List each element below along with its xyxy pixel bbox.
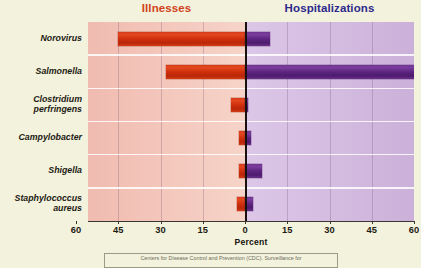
heading-illnesses: Illnesses	[88, 2, 245, 14]
zero-axis-line	[245, 22, 247, 221]
value-axis-tick-label: 60	[401, 225, 421, 235]
value-axis-tick-label: 45	[359, 225, 385, 235]
category-label: Staphylococcusaureus	[0, 194, 82, 213]
bar-illnesses	[231, 98, 245, 112]
bar-illnesses	[237, 197, 245, 211]
bar-hospitalizations	[245, 65, 414, 79]
value-axis-title: Percent	[88, 237, 414, 247]
value-axis-line	[88, 221, 414, 222]
value-axis-tick	[414, 221, 415, 224]
value-axis-tick-label: 15	[274, 225, 300, 235]
category-label: Shigella	[0, 166, 82, 176]
bar-hospitalizations	[245, 164, 262, 178]
category-label: Clostridiumperfringens	[0, 95, 82, 114]
gridline-horizontal	[88, 88, 414, 90]
value-axis-tick-label: 45	[105, 225, 131, 235]
value-axis-tick	[76, 221, 77, 224]
value-axis-tick	[330, 221, 331, 224]
value-axis-tick	[161, 221, 162, 224]
value-axis-tick	[203, 221, 204, 224]
plot-area	[88, 22, 414, 221]
gridline-horizontal	[88, 187, 414, 189]
category-label: Norovirus	[0, 34, 82, 44]
value-axis-tick-label: 60	[63, 225, 89, 235]
gridline-horizontal	[88, 54, 414, 56]
gridline-horizontal	[88, 154, 414, 156]
value-axis-tick	[287, 221, 288, 224]
heading-hospitalizations: Hospitalizations	[245, 2, 414, 14]
category-label: Salmonella	[0, 67, 82, 77]
source-caption-text: Centers for Disease Control and Preventi…	[105, 254, 337, 261]
value-axis-tick	[118, 221, 119, 224]
value-axis-tick-label: 30	[317, 225, 343, 235]
bar-hospitalizations	[245, 32, 270, 46]
bar-illnesses	[118, 32, 245, 46]
value-axis-tick-label: 30	[148, 225, 174, 235]
value-axis-tick-label: 15	[190, 225, 216, 235]
source-caption: Centers for Disease Control and Preventi…	[104, 253, 338, 268]
value-axis-tick	[372, 221, 373, 224]
chart-headings: Illnesses Hospitalizations	[0, 2, 421, 20]
gridline-horizontal	[88, 121, 414, 123]
category-label: Campylobacter	[0, 133, 82, 143]
value-axis-tick-label: 0	[232, 225, 258, 235]
bar-illnesses	[166, 65, 245, 79]
value-axis-tick	[245, 221, 246, 224]
category-axis-labels: NorovirusSalmonellaClostridiumperfringen…	[0, 22, 86, 221]
